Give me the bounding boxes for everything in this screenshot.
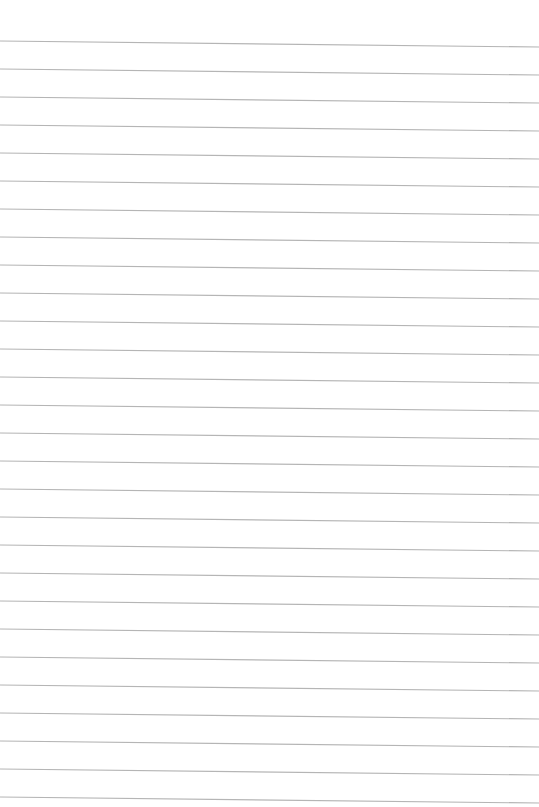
ruled-line	[0, 405, 539, 411]
ruled-line	[0, 657, 539, 663]
ruled-line	[0, 237, 539, 243]
ruled-line	[0, 125, 539, 131]
ruled-lines	[0, 0, 539, 807]
ruled-line	[0, 545, 539, 551]
ruled-line	[0, 769, 539, 775]
ruled-line	[0, 713, 539, 719]
ruled-line	[0, 433, 539, 439]
ruled-line	[0, 153, 539, 159]
ruled-line	[0, 41, 539, 47]
ruled-line	[0, 797, 539, 803]
ruled-line	[0, 265, 539, 271]
ruled-line	[0, 601, 539, 607]
ruled-line	[0, 181, 539, 187]
ruled-line	[0, 321, 539, 327]
ruled-line	[0, 209, 539, 215]
ruled-line	[0, 685, 539, 691]
ruled-line	[0, 741, 539, 747]
ruled-line	[0, 377, 539, 383]
ruled-line	[0, 97, 539, 103]
lined-paper-page	[0, 0, 539, 807]
ruled-line	[0, 349, 539, 355]
ruled-line	[0, 489, 539, 495]
ruled-line	[0, 629, 539, 635]
ruled-line	[0, 69, 539, 75]
ruled-line	[0, 573, 539, 579]
ruled-line	[0, 517, 539, 523]
ruled-line	[0, 293, 539, 299]
ruled-line	[0, 461, 539, 467]
